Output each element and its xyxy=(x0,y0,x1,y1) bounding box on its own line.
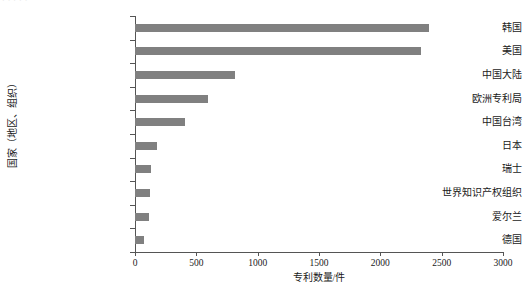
y-axis-category-label: 瑞士 xyxy=(398,163,525,175)
x-axis-tick-label: 500 xyxy=(189,258,203,269)
x-axis-tick xyxy=(319,252,320,256)
x-axis-title: 专利数量/件 xyxy=(135,272,503,284)
y-axis-tick xyxy=(130,110,135,111)
x-axis-tick-label: 2500 xyxy=(432,258,451,269)
y-axis-tick xyxy=(130,63,135,64)
x-axis-tick xyxy=(258,252,259,256)
y-axis-tick xyxy=(130,158,135,159)
x-axis-tick xyxy=(503,252,504,256)
y-axis-category-label: 德国 xyxy=(398,234,525,246)
bar xyxy=(135,47,421,55)
y-axis-category-label: 世界知识产权组织 xyxy=(398,187,525,199)
x-axis-tick xyxy=(196,252,197,256)
x-axis-tick-label: 2000 xyxy=(371,258,390,269)
bar xyxy=(135,118,185,126)
y-axis-category-label: 欧洲专利局 xyxy=(398,93,525,105)
y-axis-tick xyxy=(130,181,135,182)
x-axis-tick xyxy=(135,252,136,256)
bar xyxy=(135,71,235,79)
y-axis-category-label: 中国大陆 xyxy=(398,69,525,81)
x-axis-tick xyxy=(380,252,381,256)
bar xyxy=(135,213,149,221)
x-axis-tick xyxy=(442,252,443,256)
x-axis-tick-label: 1500 xyxy=(310,258,329,269)
y-axis-category-label: 爱尔兰 xyxy=(398,211,525,223)
y-axis-tick xyxy=(130,87,135,88)
bar xyxy=(135,165,151,173)
bar xyxy=(135,189,150,197)
bar-chart-figure: · · · · · 韩国美国中国大陆欧洲专利局中国台湾日本瑞士世界知识产权组织爱… xyxy=(0,0,525,300)
y-axis-tick xyxy=(130,16,135,17)
bar xyxy=(135,142,157,150)
bar xyxy=(135,95,208,103)
x-axis-tick-label: 1000 xyxy=(248,258,267,269)
y-axis-tick xyxy=(130,228,135,229)
y-axis-category-label: 日本 xyxy=(398,140,525,152)
bar xyxy=(135,24,429,32)
y-axis-tick xyxy=(130,205,135,206)
x-axis-tick-label: 3000 xyxy=(494,258,513,269)
y-axis-tick xyxy=(130,134,135,135)
y-axis-title: 国家（地区、组织） xyxy=(7,38,19,208)
y-axis-tick xyxy=(130,40,135,41)
x-axis-tick-label: 0 xyxy=(133,258,138,269)
y-axis-category-label: 中国台湾 xyxy=(398,116,525,128)
clipped-caption-fragment: · · · · · xyxy=(2,0,28,5)
bar xyxy=(135,236,144,244)
